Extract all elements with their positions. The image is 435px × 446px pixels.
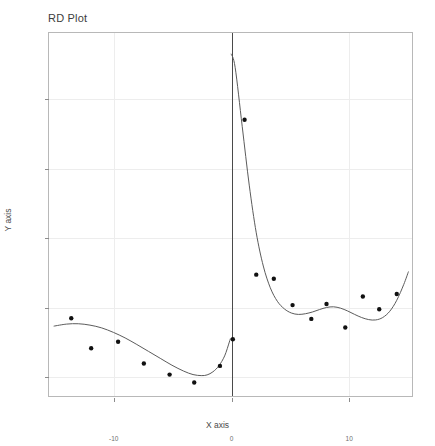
data-point (167, 372, 171, 376)
data-point (218, 364, 222, 368)
data-point (142, 361, 146, 365)
data-point (377, 307, 381, 311)
x-tick-mark (114, 398, 115, 402)
data-point (89, 346, 93, 350)
data-point (309, 317, 313, 321)
fit-line (54, 324, 231, 376)
data-point (361, 294, 365, 298)
data-point (290, 303, 294, 307)
x-tick-mark (232, 398, 233, 402)
data-point (343, 325, 347, 329)
x-tick-mark (349, 398, 350, 402)
x-tick-label: -10 (109, 435, 118, 442)
rd-plot-figure: RD Plot 40060080010001200 -10010 X axis … (0, 0, 435, 446)
plot-panel: 40060080010001200 -10010 (48, 32, 413, 397)
data-point (116, 340, 120, 344)
data-point (254, 272, 258, 276)
x-tick-label: 10 (346, 435, 353, 442)
fit-line (231, 54, 408, 320)
data-point (69, 316, 73, 320)
data-point (395, 292, 399, 296)
x-tick-label: 0 (230, 435, 234, 442)
page-title: RD Plot (48, 12, 87, 24)
y-axis-title: Y axis (3, 140, 13, 300)
chart-curves-layer (49, 33, 412, 396)
data-point (324, 302, 328, 306)
data-point (272, 277, 276, 281)
data-point (242, 118, 246, 122)
data-point (192, 380, 196, 384)
data-point (231, 337, 235, 341)
x-axis-title: X axis (0, 420, 435, 430)
